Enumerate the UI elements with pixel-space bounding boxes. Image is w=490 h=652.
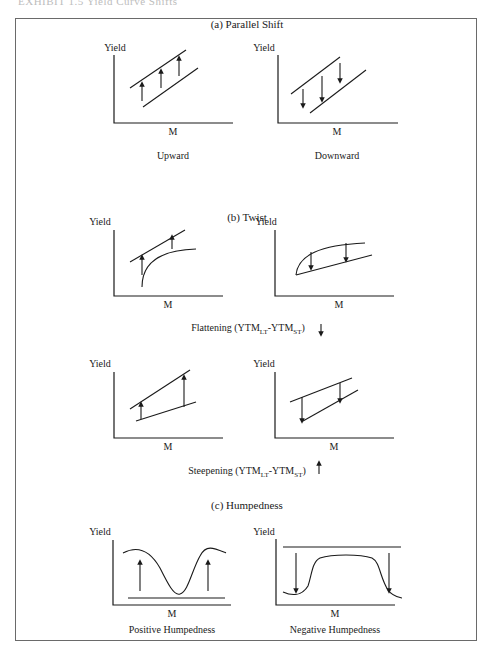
yield-curve-shift-diagram: (a) Parallel Shift Yield M Upward Yield …	[0, 0, 490, 652]
shifted-curve	[303, 390, 358, 421]
y-axis-label: Yield	[104, 42, 126, 53]
axes	[114, 372, 223, 438]
original-curve	[142, 249, 196, 287]
y-axis-label: Yield	[253, 42, 275, 53]
y-axis-label: Yield	[255, 216, 277, 227]
inverted-hump-curve	[283, 555, 402, 598]
shifted-curve	[296, 255, 372, 275]
humped-curve	[123, 548, 226, 594]
y-axis-label: Yield	[89, 526, 111, 537]
x-axis-label: M	[164, 299, 173, 310]
section-title-humpedness: (c) Humpedness	[211, 499, 283, 512]
shifted-curve	[130, 230, 185, 262]
chart-twist-steepening-right: Yield M	[253, 358, 394, 452]
chart-caption-positive-humpedness: Positive Humpedness	[129, 624, 215, 635]
chart-twist-flattening-left: Yield M	[89, 216, 223, 310]
chart-negative-humpedness: Yield M Negative Humpedness	[253, 526, 402, 635]
x-axis-label: M	[333, 126, 342, 137]
chart-parallel-upward: Yield M Upward	[104, 42, 233, 161]
y-axis-label: Yield	[253, 358, 275, 369]
axes	[276, 539, 395, 605]
axes	[278, 55, 398, 123]
caption-flattening: Flattening (YTMLT-YTMST)	[191, 322, 305, 336]
chart-caption-negative-humpedness: Negative Humpedness	[290, 624, 380, 635]
axes	[275, 372, 394, 438]
original-curve	[136, 402, 196, 421]
original-curve	[291, 57, 340, 94]
section-title-parallel-shift: (a) Parallel Shift	[211, 18, 284, 31]
y-axis-label: Yield	[89, 216, 111, 227]
chart-caption-downward: Downward	[315, 150, 359, 161]
axes	[275, 230, 394, 296]
chart-caption-upward: Upward	[157, 150, 189, 161]
x-axis-label: M	[330, 441, 339, 452]
axes	[114, 55, 233, 123]
y-axis-label: Yield	[89, 358, 111, 369]
x-axis-label: M	[335, 299, 344, 310]
x-axis-label: M	[164, 441, 173, 452]
y-axis-label: Yield	[253, 526, 275, 537]
x-axis-label: M	[331, 608, 340, 619]
x-axis-label: M	[169, 126, 178, 137]
chart-twist-steepening-left: Yield M	[89, 358, 223, 452]
chart-parallel-downward: Yield M Downward	[253, 42, 398, 161]
caption-steepening: Steepening (YTMLT-YTMST)	[188, 465, 306, 479]
chart-twist-flattening-right: Yield M	[255, 216, 394, 310]
shifted-curve	[310, 70, 366, 113]
chart-positive-humpedness: Yield M Positive Humpedness	[89, 526, 231, 635]
x-axis-label: M	[168, 608, 177, 619]
shifted-curve	[130, 370, 190, 409]
